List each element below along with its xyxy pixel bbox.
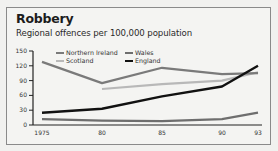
- y-tick-label: 120: [16, 62, 28, 69]
- series-line-wales: [42, 113, 258, 121]
- x-tick-label: 1975: [34, 129, 49, 136]
- legend: Northern IrelandWalesScotlandEngland: [56, 49, 161, 65]
- legend-label: Wales: [135, 49, 154, 56]
- y-tick-label: 150: [16, 47, 28, 54]
- x-tick-label: 80: [98, 129, 106, 136]
- y-tick-label: 90: [19, 77, 27, 84]
- x-tick-label: 93: [254, 129, 262, 136]
- x-tick-label: 85: [158, 129, 166, 136]
- legend-label: Northern Ireland: [66, 49, 118, 56]
- legend-label: England: [135, 57, 161, 65]
- y-tick-label: 60: [19, 91, 27, 98]
- line-chart: 0306090120150197580859093 Northern Irela…: [0, 0, 278, 151]
- y-tick-label: 30: [19, 106, 27, 113]
- x-tick-label: 90: [218, 129, 226, 136]
- y-tick-label: 0: [23, 121, 27, 128]
- legend-label: Scotland: [66, 57, 93, 64]
- series-lines: [42, 62, 258, 121]
